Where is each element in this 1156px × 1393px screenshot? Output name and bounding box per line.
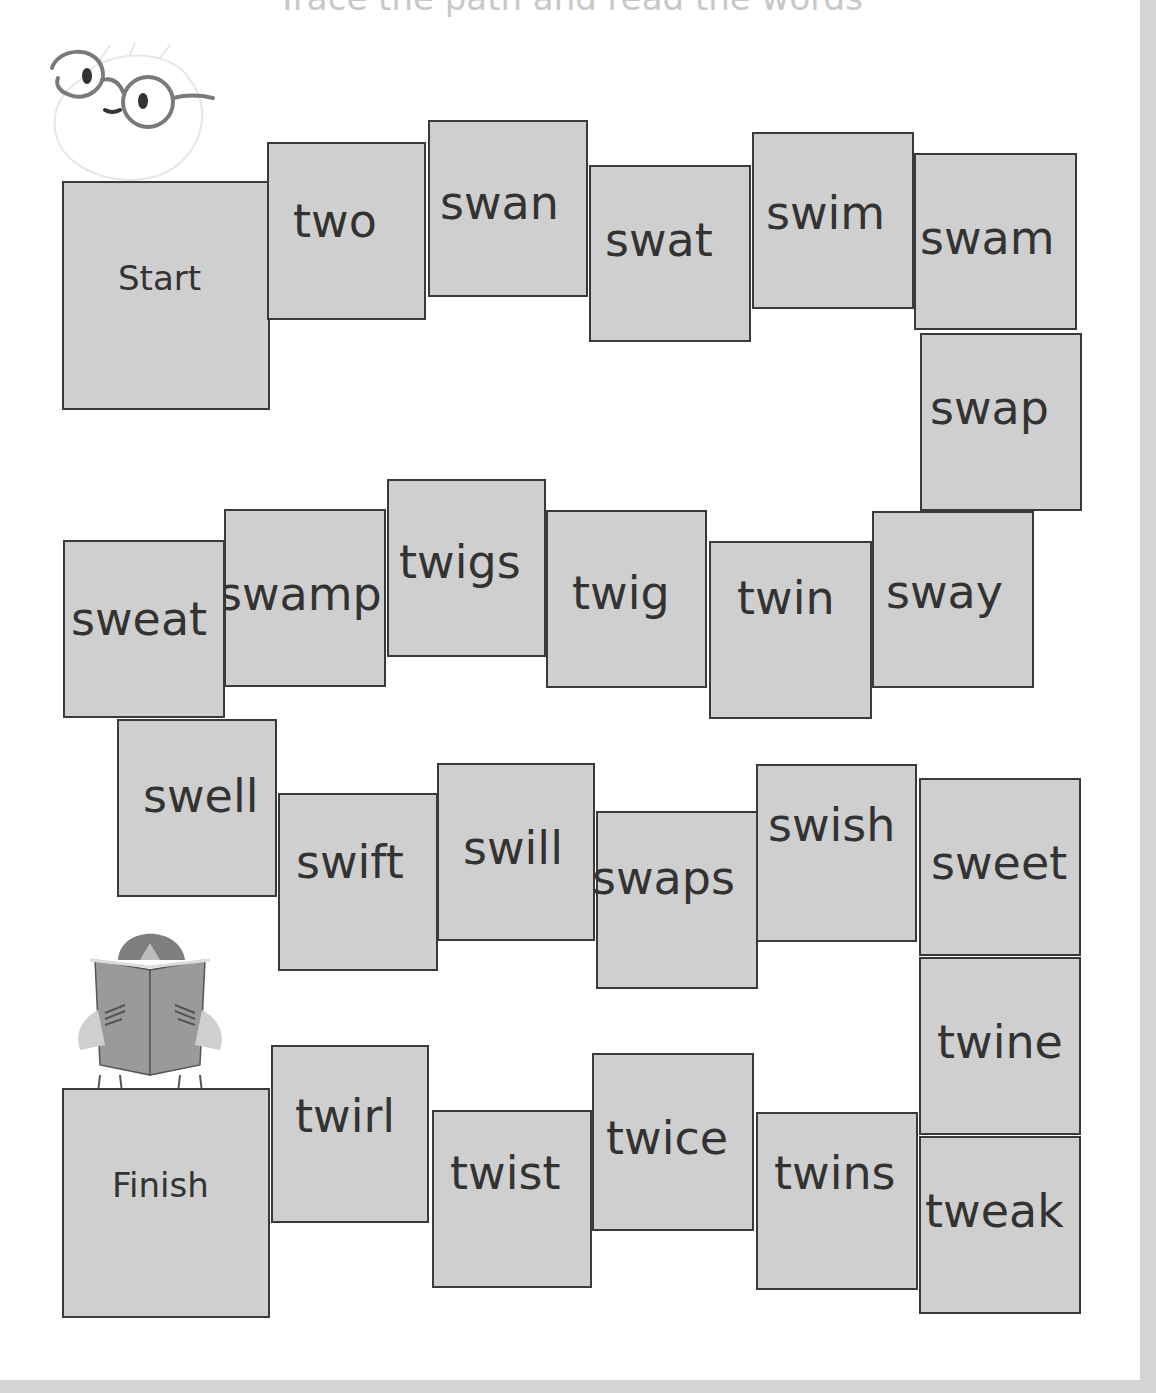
- word-tile[interactable]: swell: [117, 719, 277, 897]
- word-tile[interactable]: swill: [437, 763, 595, 941]
- tile-word: swap: [930, 385, 1049, 431]
- page-edge-right: [1140, 0, 1156, 1393]
- word-tile[interactable]: swamp: [224, 509, 386, 687]
- word-tile[interactable]: sweet: [919, 778, 1081, 956]
- word-tile[interactable]: two: [267, 142, 426, 320]
- tile-word: swaps: [592, 855, 735, 901]
- tile-word: twine: [937, 1019, 1063, 1065]
- word-tile[interactable]: swap: [920, 333, 1082, 511]
- word-tile[interactable]: sway: [872, 511, 1034, 688]
- tile-word: sweet: [931, 840, 1067, 886]
- word-tile[interactable]: twice: [592, 1053, 754, 1231]
- tile-word: swish: [768, 802, 896, 848]
- word-tile[interactable]: tweak: [919, 1136, 1081, 1314]
- tile-word: twins: [774, 1150, 896, 1196]
- word-tile[interactable]: twigs: [387, 479, 546, 657]
- word-tile[interactable]: swift: [278, 793, 438, 971]
- tile-word: sway: [886, 569, 1003, 615]
- tile-word: twigs: [399, 539, 521, 585]
- page-title: Trace the path and read the words: [0, 0, 1140, 18]
- word-tile[interactable]: twin: [709, 541, 872, 719]
- tile-word: swan: [440, 180, 559, 226]
- tile-word: twig: [572, 570, 670, 616]
- word-tile[interactable]: swish: [756, 764, 917, 942]
- tile-word: twist: [450, 1150, 560, 1196]
- tile-word: sweat: [71, 596, 207, 642]
- start-tile[interactable]: Start: [62, 181, 270, 410]
- word-tile[interactable]: swam: [914, 153, 1077, 330]
- tile-word: twice: [606, 1115, 728, 1161]
- child-reading-icon: [70, 925, 230, 1095]
- tile-word: Start: [118, 261, 201, 295]
- tile-word: swim: [766, 190, 885, 236]
- tile-word: swam: [920, 215, 1055, 261]
- tile-word: swamp: [218, 571, 382, 617]
- word-tile[interactable]: twins: [756, 1112, 918, 1290]
- tile-word: swat: [605, 217, 713, 263]
- word-tile[interactable]: swim: [752, 132, 914, 309]
- tile-word: tweak: [925, 1188, 1064, 1234]
- word-tile[interactable]: twirl: [271, 1045, 429, 1223]
- word-tile[interactable]: swat: [589, 165, 751, 342]
- page-edge-bottom: [0, 1380, 1156, 1393]
- word-tile[interactable]: swan: [428, 120, 588, 297]
- word-tile[interactable]: twist: [432, 1110, 592, 1288]
- word-tile[interactable]: twig: [546, 510, 707, 688]
- tile-word: swill: [463, 825, 563, 871]
- tile-word: swell: [143, 773, 258, 819]
- word-tile[interactable]: swaps: [596, 811, 758, 989]
- tile-word: Finish: [112, 1168, 209, 1202]
- tile-word: two: [293, 198, 377, 244]
- word-tile[interactable]: twine: [919, 957, 1081, 1135]
- tile-word: swift: [296, 839, 404, 885]
- tile-word: twin: [737, 575, 835, 621]
- tile-word: twirl: [295, 1093, 395, 1139]
- word-tile[interactable]: sweat: [63, 540, 225, 718]
- finish-tile[interactable]: Finish: [62, 1088, 270, 1318]
